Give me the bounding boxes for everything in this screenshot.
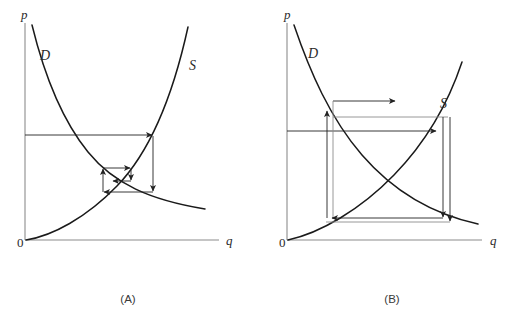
panel-b-caption: (B) (384, 293, 400, 305)
panel-a-origin-label: 0 (17, 235, 24, 250)
panel-b-origin-label: 0 (279, 235, 286, 250)
panel-a-supply-label: S (189, 58, 196, 73)
panel-b-supply-curve (288, 62, 462, 240)
panel-b-demand-label: D (307, 46, 318, 61)
figure-canvas: p q 0 D S (A) p q 0 (0, 0, 507, 324)
panel-a-cobweb-path (25, 135, 153, 192)
panel-a-supply-curve (26, 27, 188, 240)
panel-a-caption: (A) (120, 293, 136, 305)
panel-a-x-axis-label: q (226, 233, 233, 248)
panel-b-x-axis-label: q (490, 233, 497, 248)
panel-a-demand-label: D (39, 48, 50, 63)
panel-b: p q 0 D S (B) (279, 7, 497, 305)
panel-b-supply-label: S (440, 96, 447, 111)
panel-b-y-axis-label: p (283, 7, 291, 22)
cobweb-figure: p q 0 D S (A) p q 0 (0, 0, 507, 324)
panel-a: p q 0 D S (A) (17, 7, 233, 305)
panel-a-y-axis-label: p (20, 7, 28, 22)
